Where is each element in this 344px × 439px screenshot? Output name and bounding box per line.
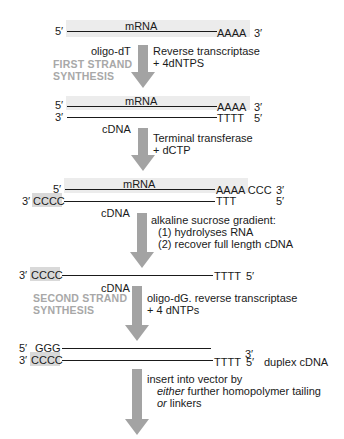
row2-top-five-prime: 5′ — [55, 99, 63, 111]
step3-line-1: alkaline sucrose gradient: — [151, 214, 276, 226]
step5-or: or — [157, 397, 167, 409]
row5-polyt-tail: TTTT — [214, 356, 241, 368]
row3-ccc-head: CCCC — [33, 195, 65, 207]
row2-bottom-three-prime: 3′ — [55, 111, 63, 123]
row2-polyt-tail: TTTT — [217, 112, 244, 124]
step5-line-3: or linkers — [157, 397, 202, 409]
row3-polyt-tail: TTT — [216, 195, 236, 207]
row1-polya-tail: AAAA — [217, 27, 246, 39]
row5-bottom-strand — [62, 360, 213, 361]
step4-stage-label-2: SYNTHESIS — [33, 304, 94, 316]
step1-stage-label-2: SYNTHESIS — [53, 70, 114, 82]
step1-arrow-icon — [135, 45, 151, 89]
step3-line-3: (2) recover full length cDNA — [158, 238, 293, 250]
row3-mrna-label: mRNA — [123, 178, 155, 190]
step4-stage-label-1: SECOND STRAND — [33, 292, 127, 304]
row3-bottom-three-prime: 3′ — [22, 195, 30, 207]
step4-reagent-1: oligo-dG. reverse transcriptase — [147, 292, 297, 304]
row2-mrna-label: mRNA — [125, 95, 157, 107]
row4-three-prime: 3′ — [19, 269, 27, 281]
row1-mrna-label: mRNA — [125, 20, 157, 32]
step1-stage-label-1: FIRST STRAND — [53, 58, 132, 70]
step5-arrow-icon — [129, 369, 145, 436]
step5-line-3-rest: linkers — [167, 397, 202, 409]
step5-line-2-rest: further homopolymer tailing — [185, 385, 321, 397]
row2-cdna-strand — [67, 117, 217, 118]
row3-cdna-strand — [64, 201, 215, 202]
row3-cdna-label: cDNA — [101, 207, 130, 219]
step2-reagent-1: Terminal transferase — [153, 132, 253, 144]
step5-either: either — [157, 385, 185, 397]
step2-arrow-icon — [135, 128, 151, 172]
row5-top-five-prime: 5′ — [19, 342, 27, 354]
step3-arrow-icon — [134, 213, 150, 269]
step3-line-2: (1) hydrolyses RNA — [158, 226, 253, 238]
row5-bottom-five-prime: 5′ — [246, 356, 254, 368]
row1-five-prime: 5′ — [55, 25, 63, 37]
row4-polyt-tail: TTTT — [214, 270, 241, 282]
row4-five-prime: 5′ — [246, 270, 254, 282]
row2-cdna-label: cDNA — [102, 123, 131, 135]
row2-bottom-five-prime: 5′ — [254, 112, 262, 124]
step5-line-1: insert into vector by — [147, 373, 242, 385]
row5-top-strand — [62, 348, 211, 349]
step1-reagent-2: + 4dNTPS — [153, 57, 204, 69]
step5-line-2: either further homopolymer tailing — [157, 385, 321, 397]
row5-bottom-three-prime: 3′ — [19, 354, 27, 366]
step1-primer: oligo-dT — [91, 45, 131, 57]
step2-reagent-2: + dCTP — [153, 144, 191, 156]
step4-arrow-icon — [129, 286, 145, 342]
step1-reagent-1: Reverse transcriptase — [153, 45, 260, 57]
row4-cdna-strand — [62, 275, 213, 276]
row5-duplex-label: duplex cDNA — [264, 356, 328, 368]
row3-bottom-five-prime: 5′ — [276, 195, 284, 207]
step4-reagent-2: + 4 dNTPs — [147, 304, 199, 316]
row1-three-prime: 3′ — [254, 27, 262, 39]
row4-ccc-head: CCCC — [31, 269, 63, 281]
row5-ccc-head: CCCC — [31, 354, 63, 366]
